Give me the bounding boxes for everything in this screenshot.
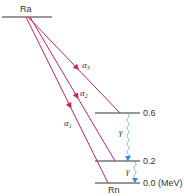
level-0.0-label: 0.0 (MeV) [143,178,183,188]
gamma1-label: γ [119,127,123,137]
alpha3-label: α3 [82,60,90,71]
decay-diagram: Ra 0.6 0.2 0.0 (MeV) Rn α3 α2 α1 γ γ [0,0,184,196]
gamma1-wave [127,114,129,162]
level-0.6-label: 0.6 [143,108,156,118]
alpha2-label: α2 [80,88,88,99]
alpha2-line [30,17,115,161]
ra-label: Ra [20,4,32,14]
rn-label: Rn [108,185,120,195]
level-0.2-label: 0.2 [143,156,156,166]
gamma2-wave [134,162,136,178]
alpha1-label: α1 [64,118,72,129]
alpha1-arrow [68,102,70,106]
gamma2-label: γ [126,166,130,176]
alpha3-arrow [74,65,77,68]
alpha1-line [26,17,108,183]
gamma2-arrowhead [132,178,138,183]
gamma1-arrowhead [125,156,131,161]
